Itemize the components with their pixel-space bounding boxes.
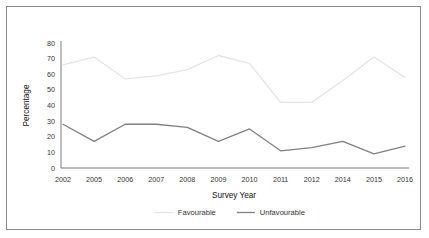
x-tick-label: 2009 xyxy=(210,175,226,184)
series-lines xyxy=(63,56,405,154)
y-tick-label: 50 xyxy=(47,85,55,94)
legend-label-favourable: Favourable xyxy=(178,208,216,217)
x-tick-label: 2010 xyxy=(242,175,258,184)
x-tick-label: 2005 xyxy=(86,175,102,184)
y-tick-label: 20 xyxy=(47,132,55,141)
y-tick-label: 0 xyxy=(51,164,55,173)
x-tick-label: 2002 xyxy=(55,175,71,184)
legend-label-unfavourable: Unfavourable xyxy=(260,208,305,217)
x-tick-label: 2016 xyxy=(397,175,413,184)
y-tick-label: 60 xyxy=(47,70,55,79)
x-axis-title: Survey Year xyxy=(212,191,256,200)
x-tick-label: 2012 xyxy=(304,175,320,184)
x-tick-label: 2011 xyxy=(273,175,288,184)
y-tick-label: 10 xyxy=(47,148,55,157)
line-chart: 01020304050607080 2002200520062007200820… xyxy=(7,7,422,231)
x-tick-label: 2007 xyxy=(148,175,164,184)
series-line-favourable xyxy=(63,56,405,103)
y-tick-label: 70 xyxy=(47,54,55,63)
y-axis-tick-labels: 01020304050607080 xyxy=(47,39,55,173)
chart-frame: 01020304050607080 2002200520062007200820… xyxy=(6,6,421,230)
y-tick-label: 40 xyxy=(47,101,55,110)
plot-area: 01020304050607080 2002200520062007200820… xyxy=(7,7,422,231)
x-axis-tick-labels: 2002200520062007200820092010201120122014… xyxy=(55,175,413,184)
y-tick-label: 30 xyxy=(47,117,55,126)
x-tick-label: 2015 xyxy=(366,175,382,184)
series-line-unfavourable xyxy=(63,124,405,154)
y-tick-label: 80 xyxy=(47,39,55,48)
chart-legend: FavourableUnfavourable xyxy=(155,208,305,217)
x-tick-label: 2014 xyxy=(335,175,351,184)
y-axis-title: Percentage xyxy=(22,84,31,126)
x-tick-label: 2006 xyxy=(117,175,133,184)
x-tick-label: 2008 xyxy=(179,175,195,184)
